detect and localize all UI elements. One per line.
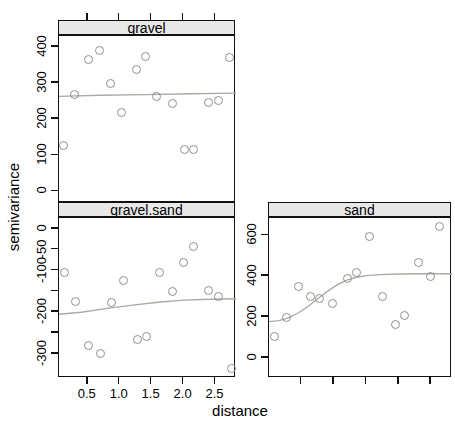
y-axis-tick-label: 0	[245, 353, 258, 360]
data-point	[426, 272, 435, 281]
panel-strip-gravel-sand: gravel.sand	[58, 202, 235, 217]
y-axis-tick-label: 0	[35, 187, 48, 194]
data-point	[365, 232, 374, 241]
y-axis-tick	[51, 45, 58, 47]
data-point	[84, 341, 93, 350]
data-point	[96, 349, 105, 358]
data-point	[414, 258, 423, 267]
panel-strip-sand: sand	[268, 202, 451, 217]
x-axis-tick	[86, 13, 88, 20]
data-point	[71, 297, 80, 306]
y-axis-tick	[261, 274, 268, 276]
x-axis-tick	[150, 377, 152, 384]
data-point	[60, 268, 69, 277]
y-axis-tick	[51, 310, 58, 312]
panel-sand	[268, 217, 451, 377]
x-axis-title: distance	[212, 403, 268, 418]
y-axis-tick	[51, 269, 58, 271]
data-point	[214, 292, 223, 301]
data-point	[84, 55, 93, 64]
x-axis-tick	[150, 13, 152, 20]
x-axis-tick	[397, 377, 399, 384]
y-axis-tick-label: 0	[35, 224, 48, 231]
panel-strip-gravel: gravel	[58, 20, 235, 35]
x-axis-tick-label: 2.5	[206, 387, 224, 400]
data-point	[133, 335, 142, 344]
data-point	[132, 65, 141, 74]
y-axis-tick	[51, 117, 58, 119]
y-axis-tick-label: 400	[245, 264, 258, 286]
data-point	[155, 268, 164, 277]
y-axis-tick	[51, 331, 58, 333]
x-axis-tick	[118, 377, 120, 384]
data-point	[270, 332, 279, 341]
y-axis-tick	[51, 154, 58, 156]
data-point	[204, 98, 213, 107]
y-axis-tick-label: 600	[245, 224, 258, 246]
y-axis-tick-label: -50	[35, 239, 48, 258]
x-axis-tick-label: 1.0	[110, 387, 128, 400]
x-axis-tick	[365, 377, 367, 384]
x-axis-tick	[214, 377, 216, 384]
panel-gravel	[58, 35, 235, 202]
panel-gravel-sand	[58, 217, 235, 377]
data-point	[306, 292, 315, 301]
fitted-model-line	[269, 218, 452, 378]
data-point	[378, 292, 387, 301]
y-axis-tick	[51, 190, 58, 192]
y-axis-tick-label: 400	[35, 35, 48, 57]
y-axis-tick-label: 200	[245, 305, 258, 327]
x-axis-tick	[429, 377, 431, 384]
strip-label: gravel.sand	[110, 203, 182, 217]
y-axis-tick-label: -200	[35, 298, 48, 324]
y-axis-tick	[261, 356, 268, 358]
y-axis-tick	[51, 248, 58, 250]
strip-label: sand	[344, 203, 374, 217]
y-axis-tick-label: 300	[35, 71, 48, 93]
data-point	[214, 96, 223, 105]
x-axis-tick	[214, 13, 216, 20]
y-axis-title: semivariance	[6, 163, 21, 251]
x-axis-tick	[86, 377, 88, 384]
fitted-model-line	[59, 218, 236, 378]
x-axis-tick-label: 0.5	[78, 387, 96, 400]
y-axis-tick-label: 200	[35, 107, 48, 129]
y-axis-tick-label: -100	[35, 256, 48, 282]
x-axis-tick-label: 1.5	[142, 387, 160, 400]
y-axis-tick	[261, 234, 268, 236]
strip-label: gravel	[127, 21, 165, 35]
x-axis-tick-label: 2.0	[174, 387, 192, 400]
data-point	[70, 90, 79, 99]
data-point	[106, 79, 115, 88]
y-axis-tick	[51, 290, 58, 292]
y-axis-tick-label: -300	[35, 340, 48, 366]
data-point	[117, 108, 126, 117]
y-axis-tick	[51, 227, 58, 229]
data-point	[168, 287, 177, 296]
data-point	[168, 99, 177, 108]
x-axis-tick	[300, 377, 302, 384]
data-point	[391, 320, 400, 329]
trellis-variogram-figure: semivariance distance gravel gravel.sand…	[0, 0, 455, 433]
data-point	[352, 268, 361, 277]
y-axis-tick	[261, 315, 268, 317]
data-point	[282, 313, 291, 322]
data-point	[189, 145, 198, 154]
y-axis-tick-label: 100	[35, 143, 48, 165]
y-axis-tick	[51, 81, 58, 83]
x-axis-tick	[182, 377, 184, 384]
data-point	[227, 364, 236, 373]
data-point	[343, 274, 352, 283]
x-axis-tick	[182, 13, 184, 20]
y-axis-tick	[51, 352, 58, 354]
x-axis-tick	[118, 13, 120, 20]
data-point	[142, 332, 151, 341]
data-point	[141, 52, 150, 61]
x-axis-tick	[332, 377, 334, 384]
data-point	[95, 46, 104, 55]
